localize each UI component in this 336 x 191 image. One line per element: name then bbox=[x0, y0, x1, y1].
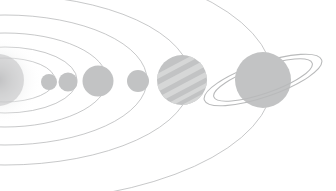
planet-mercury bbox=[41, 74, 57, 90]
planet-mars bbox=[127, 70, 149, 92]
planet-earth bbox=[83, 66, 114, 97]
planet-venus bbox=[59, 73, 78, 92]
solar-system-diagram bbox=[0, 0, 336, 191]
diagram-canvas bbox=[0, 0, 336, 191]
